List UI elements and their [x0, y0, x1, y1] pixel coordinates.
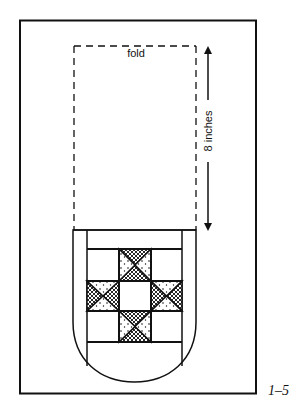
fold-label: fold — [127, 47, 145, 59]
measure-label: 8 inches — [202, 110, 214, 151]
diagram-canvas: fold 8 inches — [0, 0, 293, 417]
figure-number: 1–5 — [268, 383, 289, 398]
arrow-down-icon — [204, 223, 212, 231]
arrow-up-icon — [204, 46, 212, 54]
fold-dashed-outline — [74, 46, 196, 230]
